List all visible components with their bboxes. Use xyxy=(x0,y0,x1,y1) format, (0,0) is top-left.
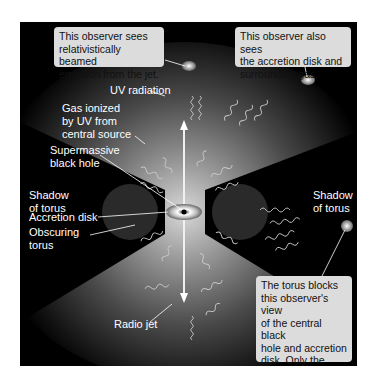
obscuring-torus-label: Obscuring torus xyxy=(29,226,79,252)
disk-observer-callout: This observer also sees the accretion di… xyxy=(235,27,351,67)
gas-ionized-label: Gas ionized by UV from central source xyxy=(62,102,131,141)
agn-diagram-panel: This observer sees relativistically beam… xyxy=(20,22,357,366)
accretion-disk-label: Accretion disk xyxy=(29,211,97,224)
jet-observer-callout: This observer sees relativistically beam… xyxy=(54,27,164,67)
black-hole-label: Supermassive black hole xyxy=(50,144,120,170)
uv-radiation-label: UV radiation xyxy=(110,84,171,97)
black-hole xyxy=(182,210,187,215)
radio-jet-label: Radio jet xyxy=(114,318,157,331)
torus-observer-icon xyxy=(341,220,353,232)
left-torus xyxy=(102,184,158,240)
torus-observer-callout: The torus blocks this observer's view of… xyxy=(256,276,352,362)
right-shadow-label: Shadow of torus xyxy=(313,189,353,215)
right-torus xyxy=(212,184,268,240)
